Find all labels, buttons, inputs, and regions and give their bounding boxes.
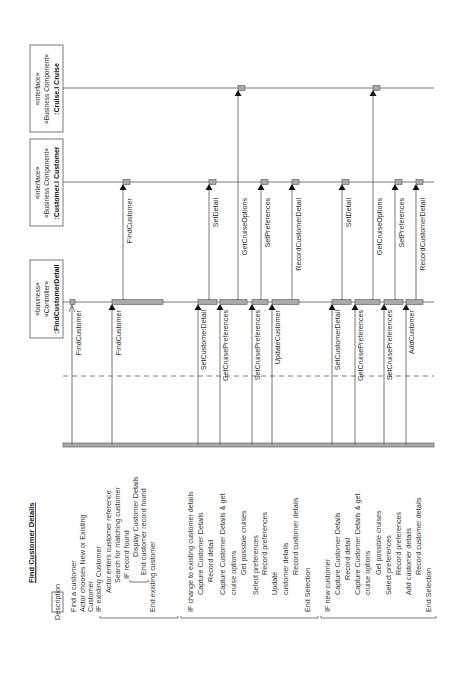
activation-bar (198, 300, 217, 305)
participant-customer: «interface» «Business Component» :Custom… (30, 139, 63, 226)
description-line: IF change to existing customer details (186, 491, 195, 612)
message-7: SetCruisePreferences (249, 304, 263, 445)
message-16: SetPreferences (392, 184, 407, 300)
activation-bar (332, 300, 351, 305)
description-line: Get possible cruises (374, 510, 383, 575)
message-14: GetCruiseOptions (370, 90, 385, 300)
description-line: IF record found (122, 530, 131, 579)
activation-bar (406, 300, 423, 305)
message-8: SetPreferences (258, 184, 273, 300)
description-group-2: IF change to existing customer details C… (181, 491, 318, 618)
filled-arrowhead-icon (258, 184, 265, 190)
description-line: Add customer details (404, 527, 413, 595)
message-label: UpdateCustomer (273, 309, 282, 364)
activation-bar (272, 300, 299, 305)
participant-name: :Cruise.I Cruise (53, 63, 60, 115)
description-line: Select preferences (384, 535, 393, 595)
description-group-bracket (321, 616, 436, 618)
message-15: SetCruisePreferences (381, 304, 395, 445)
description-line: IF existing Customer (94, 545, 103, 612)
description-line: Capture Customer Details & get (218, 494, 227, 595)
message-3: SetCustomerDetail (195, 304, 209, 445)
message-10: RecordCustomerDetail (289, 184, 304, 300)
activation-bar (416, 180, 423, 185)
filled-arrowhead-icon (289, 184, 296, 190)
description-line: Actor enters customer reference (104, 490, 113, 593)
description-group-bracket (100, 616, 178, 618)
description-line: Capture Customer Details (196, 512, 205, 595)
message-label: SetDetail (211, 198, 220, 228)
filled-arrowhead-icon (413, 184, 420, 190)
activation-bar (355, 300, 380, 305)
activation-bar (384, 300, 403, 305)
message-label: SetCruisePreferences (253, 310, 262, 381)
filled-arrowhead-icon (120, 184, 127, 190)
filled-arrowhead-icon (370, 90, 377, 96)
activation-bar (123, 180, 130, 185)
message-9: UpdateCustomer (269, 304, 283, 445)
message-2: FindCustomer (120, 184, 135, 300)
participant-stereotype: «business» (34, 282, 41, 316)
activation-bar (220, 300, 247, 305)
message-12: SetDetail (339, 184, 354, 300)
description-line: Record detail (206, 539, 215, 582)
participant-controller: «business» «Controller» :FindCustomerDet… (30, 260, 63, 338)
description-label: Description (53, 584, 62, 620)
message-1: FindCustomer (109, 304, 124, 445)
message-6: GetCruiseOptions (235, 90, 250, 300)
description-line: Update (270, 572, 279, 595)
message-5: GetCruisePreferences (217, 304, 231, 445)
description-group-3: IF new customer Capture Customer Details… (321, 494, 436, 618)
description-line: Record preferences (394, 511, 403, 575)
description-line: cruise options (363, 550, 372, 595)
activation-bar (342, 180, 349, 185)
activation-bar (209, 180, 216, 185)
description-group-bracket (181, 616, 318, 618)
participant-name: :FindCustomerDetail (53, 265, 60, 334)
message-0: FindCustomer (69, 305, 83, 445)
message-label: AddCustomer (407, 309, 416, 354)
message-label: FindCustomer (114, 309, 123, 355)
description-line: Find a customer (69, 560, 78, 612)
description-line: Capture Customer Details & get (353, 494, 362, 595)
activation-bar (395, 180, 402, 185)
activation-bar (252, 300, 268, 305)
description-line: End existing customer (148, 541, 157, 612)
description-line: End Selection (303, 568, 312, 612)
diagram-title: Find Customer Details (27, 502, 36, 583)
participant-stereotype: «Business Component» (43, 54, 51, 124)
description-line: cruise options (229, 550, 238, 595)
message-label: RecordCustomerDetail (294, 198, 303, 271)
message-label: SetPreferences (397, 198, 406, 248)
participant-stereotype: «Business Component» (43, 148, 51, 218)
activation-bar (292, 180, 299, 185)
description-line: Record detail (343, 537, 352, 580)
message-label: GetCruiseOptions (240, 198, 249, 256)
activation-bar (70, 300, 75, 305)
filled-arrowhead-icon (392, 184, 399, 190)
participant-cruise: «interface» «Business Component» :Cruise… (30, 45, 63, 132)
message-label: GetCruisePreferences (356, 310, 365, 382)
sequence-diagram-page: «business» «Controller» :FindCustomerDet… (0, 0, 452, 676)
filled-arrowhead-icon (235, 90, 242, 96)
message-label: SetCustomerDetail (333, 310, 342, 371)
description-line: Record preferences (260, 511, 269, 575)
description-line: Record customer details (291, 497, 300, 575)
message-17: AddCustomer (403, 304, 417, 445)
activation-bar (238, 86, 245, 91)
message-label: GetCruisePreferences (221, 310, 230, 382)
description-line: Record customer details (414, 497, 423, 575)
message-label: SetCruisePreferences (385, 310, 394, 381)
message-label: GetCruiseOptions (375, 198, 384, 256)
participant-stereotype: «interface» (34, 166, 41, 199)
participant-name: :Customer.I Customer (53, 146, 60, 219)
actor-activation-bar (63, 443, 434, 447)
participant-stereotype: «interface» (34, 72, 41, 105)
description-line: Capture Customer Details (333, 512, 342, 595)
description-line: IF new customer (323, 558, 332, 612)
description-line: End customer record found (139, 488, 148, 575)
message-label: SetPreferences (263, 198, 272, 248)
nested-bracket (130, 580, 148, 582)
filled-arrowhead-icon (339, 184, 346, 190)
message-11: SetCustomerDetail (329, 304, 343, 445)
